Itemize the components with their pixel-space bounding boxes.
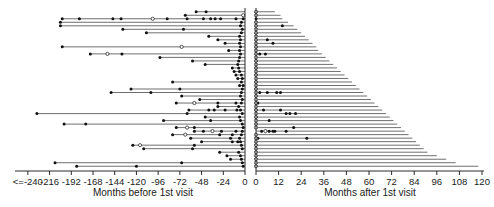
event-dot-before [186,112,189,115]
x-tick-label-after: 108 [451,176,467,187]
event-dot-before [111,17,114,20]
event-dot-before [241,161,244,164]
x-tick-label-before: <=-240 [13,176,43,187]
event-dot-before [61,17,64,20]
event-dot-before [240,80,243,83]
chart-row [218,151,427,154]
event-dot-before [120,52,123,55]
open-dot-before [138,144,141,147]
event-dot-before [205,10,208,13]
event-dot-before [239,45,242,48]
chart-row [158,56,325,59]
event-dot-after [262,109,265,112]
x-tick-label-after: 96 [432,176,443,187]
chart-row [200,140,416,143]
event-dot-before [180,161,183,164]
event-dot-before [202,130,205,133]
event-dot-before [238,35,241,38]
event-dot-before [216,102,219,105]
event-dot-before [193,126,196,129]
open-dot-before [151,17,154,20]
x-tick-label-after: 60 [364,176,375,187]
event-dot-before [135,165,138,168]
event-dot-before [241,112,244,115]
event-dot-before [240,144,243,147]
event-dot-before [218,151,221,154]
event-dot-before [242,84,245,87]
chart-row [195,10,275,13]
event-dot-before [193,144,196,147]
event-dot-before [237,59,240,62]
event-dot-before [61,45,64,48]
open-dot-before [106,52,109,55]
chart-row [61,45,317,48]
event-dot-before [213,109,216,112]
event-dot-before [204,116,207,119]
event-dot-before [242,126,245,129]
chart-row [233,70,341,73]
chart-row [216,38,308,41]
event-dot-before [142,147,145,150]
event-dot-after [273,130,276,133]
event-dot-after [285,112,288,115]
event-dot-before [241,88,244,91]
event-dot-before [193,130,196,133]
event-dot-before [130,88,133,91]
x-tick-label-before: -96 [151,176,165,187]
event-dot-before [229,158,232,161]
event-dot-before [237,105,240,108]
chart-row [229,158,446,161]
event-dot-before [145,31,148,34]
event-dot-before [234,130,237,133]
event-dot-before [178,88,181,91]
chart-row [234,73,344,76]
chart-canvas: <=-240-216-192-168-144-120-96-72-48-2400… [0,0,494,207]
event-dot-before [231,66,234,69]
event-dot-before [234,17,237,20]
event-dot-before [239,119,242,122]
event-dot-before [239,52,242,55]
event-dot-before [175,126,178,129]
chart-row [204,63,334,66]
chart-row [204,115,390,118]
event-dot-before [239,38,242,41]
event-dot-before [191,147,194,150]
event-dot-after [258,52,261,55]
x-axis-title-before: Months before 1st visit [93,187,193,198]
event-dot-after [268,119,271,122]
event-dot-before [191,59,194,62]
event-dot-after [285,130,288,133]
event-dot-before [120,17,123,20]
event-dot-after [268,130,271,133]
open-dot-before [186,126,189,129]
x-tick-label-after: 36 [319,176,330,187]
event-dot-after [279,109,282,112]
event-dot-after [266,38,269,41]
event-dot-before [63,123,66,126]
open-dot-before [211,130,214,133]
event-dot-before [216,105,219,108]
event-dot-before [225,154,228,157]
event-dot-before [238,116,241,119]
event-dot-before [110,91,113,94]
event-dot-before [35,112,38,115]
event-dot-before [227,49,230,52]
event-dot-before [240,102,243,105]
chart-row [189,137,412,140]
event-dot-before [238,70,241,73]
chart-row [216,105,378,108]
event-dot-before [75,165,78,168]
axes-layer [15,8,484,175]
chart-row [59,21,288,24]
open-dot-before [180,45,183,48]
chart-row [231,66,337,69]
event-dot-before [229,137,232,140]
chart-row [236,77,348,80]
event-dot-before [218,133,221,136]
event-dot-before [238,56,241,59]
chart-row [35,112,386,115]
event-dot-before [162,119,165,122]
event-dot-after [264,52,267,55]
event-dot-before [186,17,189,20]
event-dot-before [219,17,222,20]
